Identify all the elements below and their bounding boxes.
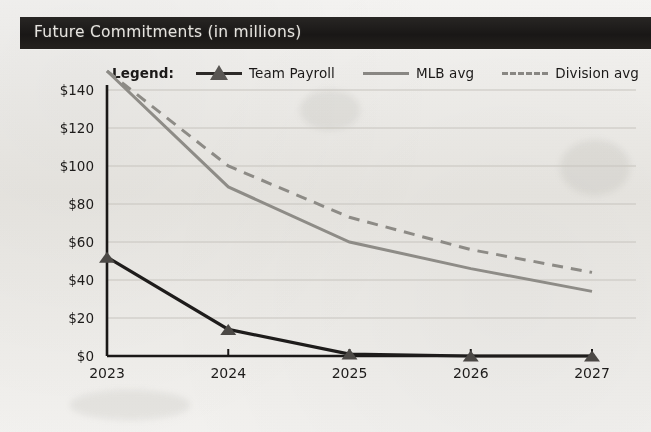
- y-axis-tick-label: $0: [77, 348, 94, 364]
- y-axis-tick-label: $100: [60, 158, 94, 174]
- x-axis-tick-label: 2027: [574, 365, 610, 381]
- x-axis-tick-label: 2024: [210, 365, 246, 381]
- y-axis-tick-label: $60: [68, 234, 94, 250]
- x-axis-tick-label: 2023: [89, 365, 125, 381]
- y-axis-tick-label: $120: [60, 120, 94, 136]
- x-axis-tick-label: 2026: [453, 365, 489, 381]
- line-chart: $0$20$40$60$80$100$120$14020232024202520…: [0, 0, 651, 432]
- y-axis-tick-label: $80: [68, 196, 94, 212]
- y-axis-tick-label: $20: [68, 310, 94, 326]
- y-axis-tick-label: $40: [68, 272, 94, 288]
- scanned-page: Future Commitments (in millions) Legend:…: [0, 0, 651, 432]
- data-point-marker: [99, 252, 115, 263]
- series-line-team-payroll: [107, 257, 592, 356]
- x-axis-tick-label: 2025: [332, 365, 368, 381]
- chart-plot-area: $0$20$40$60$80$100$120$14020232024202520…: [0, 0, 651, 432]
- y-axis-tick-label: $140: [60, 82, 94, 98]
